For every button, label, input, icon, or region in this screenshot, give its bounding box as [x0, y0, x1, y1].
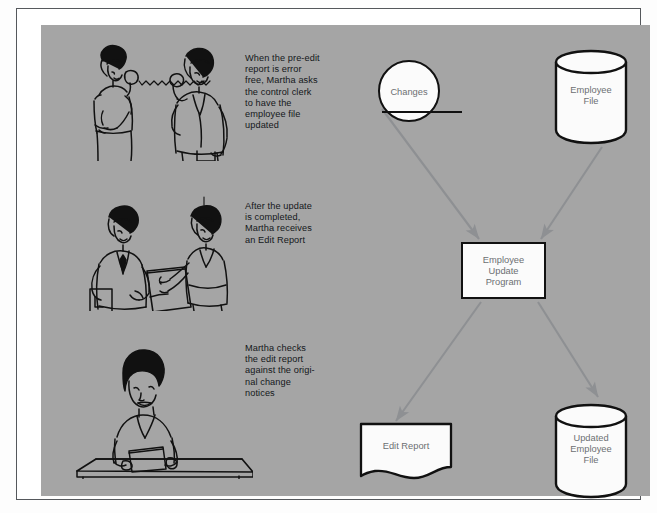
- flow-node-edit-report-label: Edit Report: [358, 441, 454, 452]
- illustration-desk-review: [71, 343, 253, 479]
- arrow-program-to-edit-report: [396, 302, 481, 421]
- caption-handing-report: After the update is completed, Martha re…: [245, 201, 357, 246]
- figure-page: When the pre-edit report is error free, …: [0, 0, 657, 513]
- changes-manual-input-line: [382, 111, 462, 113]
- flow-node-edit-report[interactable]: Edit Report: [358, 421, 454, 483]
- flow-node-changes-label: Changes: [380, 87, 438, 98]
- flow-node-update-program-label: Employee Update Program: [463, 255, 544, 288]
- figure-panel: When the pre-edit report is error free, …: [41, 25, 650, 496]
- arrow-employee-file-to-program: [541, 147, 602, 239]
- flow-node-employee-file-label: Employee File: [553, 85, 629, 107]
- arrow-program-to-updated-file: [538, 302, 598, 397]
- caption-phone-call: When the pre-edit report is error free, …: [245, 53, 355, 131]
- flow-node-updated-employee-file[interactable]: Updated Employee File: [553, 401, 629, 499]
- flow-node-employee-file[interactable]: Employee File: [553, 47, 629, 145]
- caption-desk-review: Martha checks the edit report against th…: [245, 343, 357, 399]
- flow-node-updated-employee-file-label: Updated Employee File: [553, 433, 629, 466]
- arrow-changes-to-program: [382, 109, 479, 239]
- figure-frame: When the pre-edit report is error free, …: [16, 8, 641, 500]
- illustration-handing-report: [73, 193, 235, 311]
- flow-node-update-program[interactable]: Employee Update Program: [461, 242, 546, 299]
- illustration-phone-call: [69, 39, 234, 161]
